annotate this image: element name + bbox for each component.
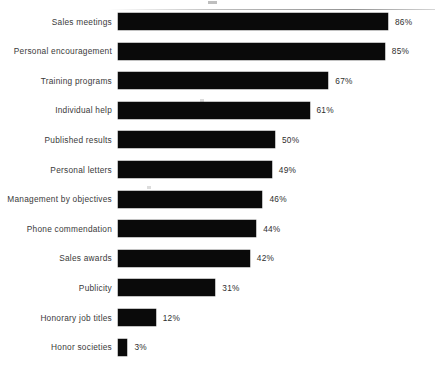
bar-row: Publicity31% [0,279,435,296]
bar-row: Personal letters49% [0,161,435,178]
bar-value-label: 46% [269,194,286,204]
bar-value-label: 85% [392,46,409,56]
bar-fill [118,131,275,148]
bar-value-label: 31% [222,283,239,293]
bar-category-label: Phone commendation [27,224,112,234]
bar-row: Personal encouragement85% [0,43,435,60]
bar-category-label: Management by objectives [7,194,112,204]
bar-category-label: Publicity [79,283,112,293]
bar-fill [118,43,385,60]
bar-category-label: Personal letters [50,165,112,175]
bar-fill [118,72,328,89]
bar-fill [118,102,310,119]
bar-row: Sales awards42% [0,250,435,267]
bar-category-label: Training programs [41,76,112,86]
bar-row: Honor societies3% [0,339,435,356]
bar-category-label: Honor societies [51,342,112,352]
bar-fill [118,220,256,237]
bar-fill [118,279,215,296]
bar-value-label: 44% [263,224,280,234]
bar-fill [118,161,272,178]
chart-top-border [108,9,435,10]
bar-category-label: Individual help [55,105,112,115]
bar-category-label: Personal encouragement [14,46,112,56]
bar-category-label: Sales meetings [52,17,112,27]
bar-category-label: Honorary job titles [40,313,112,323]
bar-row: Phone commendation44% [0,220,435,237]
bar-category-label: Sales awards [59,253,112,263]
bar-fill [118,13,388,30]
bar-value-label: 49% [279,165,296,175]
bar-value-label: 67% [335,76,352,86]
scan-artifact-icon [208,1,217,4]
bar-value-label: 42% [257,253,274,263]
bar-chart: Sales meetings86%Personal encouragement8… [0,0,435,380]
bar-row: Training programs67% [0,72,435,89]
bar-fill [118,339,127,356]
bar-row: Sales meetings86% [0,13,435,30]
scan-speck [147,186,151,189]
bar-value-label: 12% [163,313,180,323]
bar-fill [118,191,262,208]
bar-row: Management by objectives46% [0,191,435,208]
bar-fill [118,309,156,326]
bar-value-label: 86% [395,17,412,27]
bar-fill [118,250,250,267]
bar-value-label: 61% [317,105,334,115]
bar-row: Honorary job titles12% [0,309,435,326]
bar-category-label: Published results [45,135,112,145]
bar-value-label: 50% [282,135,299,145]
bar-value-label: 3% [134,342,147,352]
bar-row: Individual help61% [0,102,435,119]
bar-row: Published results50% [0,131,435,148]
